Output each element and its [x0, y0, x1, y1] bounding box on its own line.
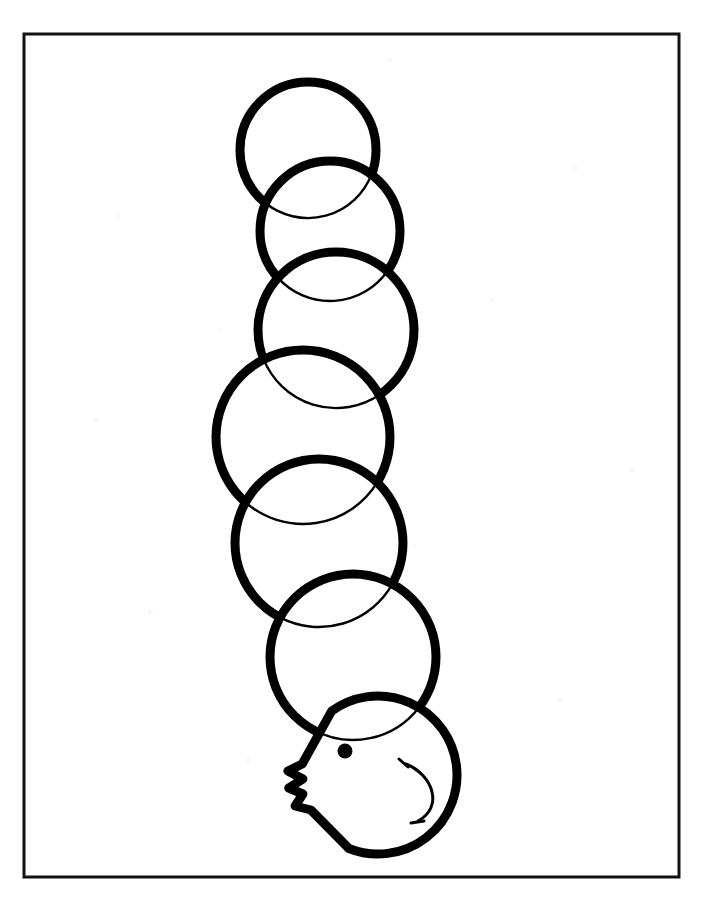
eye	[338, 744, 353, 759]
artboard	[0, 0, 703, 898]
coloring-page	[0, 0, 703, 898]
page-caption	[40, 881, 660, 895]
